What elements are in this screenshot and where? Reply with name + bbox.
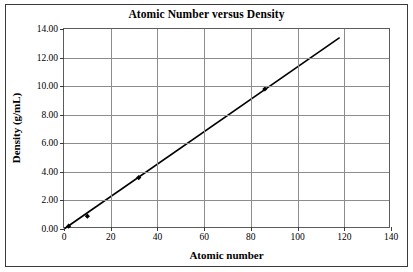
y-axis-tick [60, 200, 64, 201]
y-axis-tick-label: 14.00 [37, 24, 58, 34]
chart-title: Atomic Number versus Density [0, 8, 413, 20]
y-axis-tick [60, 29, 64, 30]
x-axis-tick [251, 227, 252, 231]
x-axis-tick [111, 227, 112, 231]
gridline-horizontal [64, 143, 389, 144]
x-axis-title: Atomic number [63, 249, 390, 261]
x-axis-tick [344, 227, 345, 231]
gridline-vertical [157, 29, 158, 227]
x-axis-tick-label: 120 [337, 232, 351, 242]
y-axis-tick [60, 172, 64, 173]
gridline-vertical [344, 29, 345, 227]
x-axis-tick-label: 40 [153, 232, 163, 242]
x-axis-tick-label: 140 [384, 232, 398, 242]
gridline-horizontal [64, 58, 389, 59]
x-axis-tick [298, 227, 299, 231]
x-axis-tick-label: 60 [199, 232, 209, 242]
x-axis-tick-label: 100 [290, 232, 304, 242]
y-axis-tick-label: 0.00 [41, 224, 58, 234]
y-axis-tick [60, 143, 64, 144]
x-axis-tick [204, 227, 205, 231]
data-series-layer [64, 29, 391, 229]
y-axis-tick [60, 58, 64, 59]
y-axis-title: Density (g/mL) [10, 93, 22, 164]
gridline-horizontal [64, 115, 389, 116]
y-axis-tick-label: 6.00 [41, 138, 58, 148]
gridline-vertical [111, 29, 112, 227]
x-axis-tick-label: 80 [246, 232, 256, 242]
plot-area: 0.002.004.006.008.0010.0012.0014.0002040… [63, 28, 390, 228]
gridline-horizontal [64, 172, 389, 173]
y-axis-tick-label: 4.00 [41, 167, 58, 177]
y-axis-tick-label: 10.00 [37, 81, 58, 91]
y-axis-tick [60, 115, 64, 116]
gridline-vertical [251, 29, 252, 227]
x-axis-tick [64, 227, 65, 231]
y-axis-tick [60, 86, 64, 87]
gridline-horizontal [64, 200, 389, 201]
gridline-horizontal [64, 86, 389, 87]
y-axis-tick-label: 12.00 [37, 53, 58, 63]
x-axis-tick-label: 20 [106, 232, 116, 242]
x-axis-tick [391, 227, 392, 231]
chart-figure: Atomic Number versus Density Density (g/… [0, 0, 413, 272]
x-axis-tick-label: 0 [62, 232, 67, 242]
gridline-vertical [204, 29, 205, 227]
x-axis-tick [157, 227, 158, 231]
y-axis-tick-label: 2.00 [41, 195, 58, 205]
y-axis-tick-label: 8.00 [41, 110, 58, 120]
gridline-vertical [298, 29, 299, 227]
